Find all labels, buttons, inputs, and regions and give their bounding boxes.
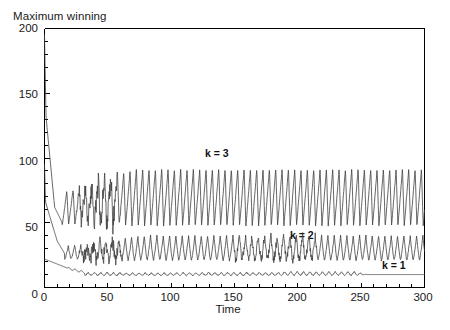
chart-plot-svg [0, 0, 450, 330]
chart-figure: Maximum winning 200 150 100 50 0 0 50 10… [0, 0, 450, 330]
chart-series [45, 35, 425, 276]
series-line-k1 [45, 259, 425, 276]
series-line-k3 [45, 35, 425, 234]
